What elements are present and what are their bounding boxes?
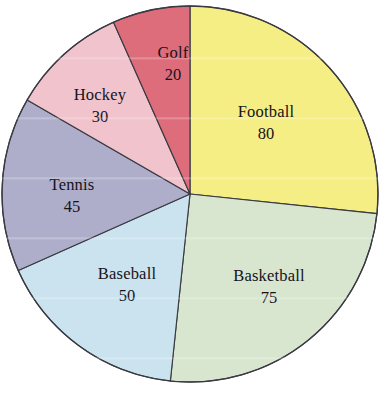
slice-label-baseball: Baseball xyxy=(98,264,157,283)
slice-value-baseball: 50 xyxy=(119,286,136,305)
slice-label-basketball: Basketball xyxy=(233,266,305,285)
pie-slices-group xyxy=(2,6,378,382)
slice-label-golf: Golf xyxy=(157,43,188,62)
slice-label-football: Football xyxy=(238,102,295,121)
slice-value-hockey: 30 xyxy=(92,107,109,126)
slice-value-basketball: 75 xyxy=(261,288,278,307)
slice-value-golf: 20 xyxy=(165,65,182,84)
slice-label-tennis: Tennis xyxy=(50,175,95,194)
slice-value-tennis: 45 xyxy=(64,197,81,216)
slice-label-hockey: Hockey xyxy=(74,85,127,104)
pie-chart-svg: Football80Basketball75Baseball50Tennis45… xyxy=(0,0,381,396)
slice-value-football: 80 xyxy=(258,124,275,143)
pie-chart-figure: Football80Basketball75Baseball50Tennis45… xyxy=(0,0,381,396)
